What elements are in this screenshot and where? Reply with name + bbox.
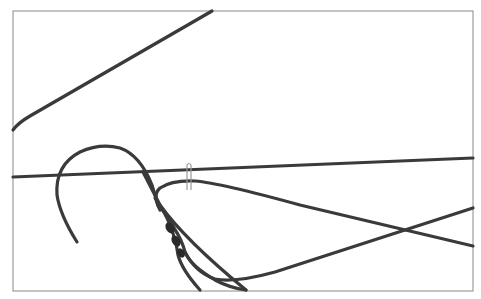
illustration-canvas [0, 0, 481, 299]
wire-hanger-drawing [0, 0, 481, 299]
